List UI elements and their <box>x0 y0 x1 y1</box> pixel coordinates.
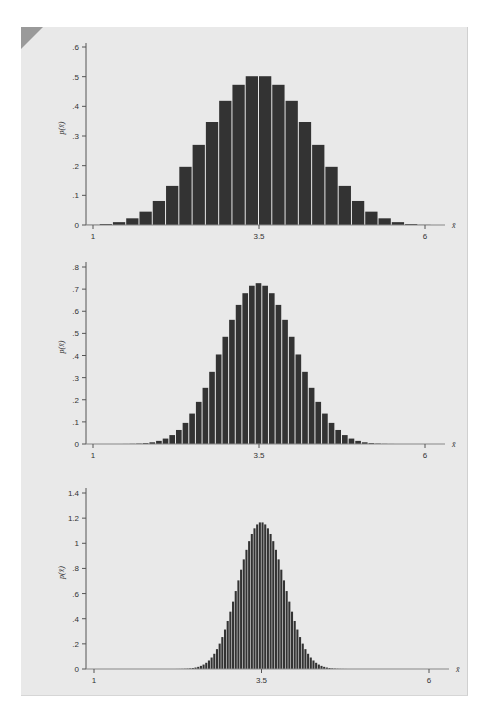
bar <box>221 637 223 669</box>
bar <box>296 354 302 444</box>
y-axis-label: p(x̄) <box>57 566 66 580</box>
y-tick-label: 1.2 <box>68 514 80 523</box>
bar <box>259 76 271 225</box>
y-tick-label: 1 <box>75 539 80 548</box>
bar <box>291 612 293 669</box>
bar <box>232 85 244 225</box>
x-tick-label: 3.5 <box>256 676 268 685</box>
bar <box>213 654 215 669</box>
y-tick-label: .2 <box>72 640 79 649</box>
bar <box>235 591 237 669</box>
bar <box>349 439 355 444</box>
x-tick-label: 6 <box>423 232 428 241</box>
bar <box>322 414 328 444</box>
y-tick-label: .8 <box>72 263 79 272</box>
x-axis-label: x̄ <box>451 440 456 449</box>
bar <box>379 218 391 225</box>
bar <box>203 665 205 669</box>
bar <box>296 630 298 669</box>
bar <box>183 423 189 444</box>
bar <box>229 320 235 444</box>
y-tick-label: .5 <box>72 73 79 82</box>
bar <box>179 167 191 225</box>
bar <box>209 372 215 444</box>
y-tick-label: .5 <box>72 329 79 338</box>
bar <box>246 76 258 225</box>
bar <box>176 430 182 444</box>
bar <box>299 122 311 225</box>
bar <box>302 372 308 444</box>
bar <box>289 337 295 444</box>
bar <box>232 602 234 669</box>
y-tick-label: .6 <box>72 590 79 599</box>
y-axis-label: p(x̄) <box>57 121 66 135</box>
bar <box>262 286 268 444</box>
bar <box>196 402 202 444</box>
bar <box>286 101 298 225</box>
bar <box>309 388 315 444</box>
bars <box>176 522 347 669</box>
bar <box>243 559 245 669</box>
bars <box>86 76 430 225</box>
y-tick-label: .6 <box>72 43 79 52</box>
bar <box>262 522 264 669</box>
bar <box>339 186 351 225</box>
bar <box>299 637 301 669</box>
x-axis-label: x̄ <box>451 221 456 230</box>
bar <box>312 660 314 669</box>
y-tick-label: .3 <box>72 132 79 141</box>
y-tick-label: 1.4 <box>68 489 80 498</box>
bar <box>251 534 253 669</box>
bar <box>203 388 209 444</box>
bar <box>245 550 247 669</box>
y-tick-label: .7 <box>72 285 79 294</box>
bar <box>275 550 277 669</box>
bar <box>205 663 207 669</box>
bar <box>193 145 205 225</box>
y-tick-label: .2 <box>72 162 79 171</box>
bar <box>315 663 317 669</box>
bar <box>312 145 324 225</box>
bar <box>264 524 266 669</box>
chart-1: 0.1.2.3.4.5.613.56x̄p(x̄) <box>57 43 456 241</box>
bar <box>352 201 364 225</box>
bar <box>227 621 229 669</box>
bar <box>240 570 242 669</box>
y-tick-label: .2 <box>72 396 79 405</box>
y-tick-label: 0 <box>75 221 80 230</box>
bar <box>307 654 309 669</box>
bar <box>236 305 242 444</box>
bar <box>248 541 250 669</box>
x-tick-label: 6 <box>427 676 432 685</box>
bar <box>315 402 321 444</box>
bar <box>216 649 218 669</box>
bar <box>163 439 169 444</box>
x-tick-label: 3.5 <box>253 451 265 460</box>
y-tick-label: .4 <box>72 615 79 624</box>
bar <box>302 644 304 669</box>
bar <box>126 218 138 225</box>
bar <box>153 201 165 225</box>
bar <box>304 649 306 669</box>
bar <box>206 122 218 225</box>
bar <box>169 435 175 444</box>
bar <box>325 167 337 225</box>
bar <box>222 337 228 444</box>
y-tick-label: 0 <box>75 440 80 449</box>
bar <box>283 580 285 669</box>
y-tick-label: .1 <box>72 418 79 427</box>
bar <box>259 522 261 669</box>
y-tick-label: .3 <box>72 374 79 383</box>
bar <box>211 658 213 669</box>
x-tick-label: 3.5 <box>253 232 265 241</box>
x-tick-label: 1 <box>91 451 96 460</box>
bar <box>224 630 226 669</box>
bar <box>310 658 312 669</box>
bar <box>278 559 280 669</box>
bar <box>219 101 231 225</box>
y-tick-label: .1 <box>72 191 79 200</box>
y-axis-label: p(x̄) <box>57 340 66 354</box>
bar <box>272 85 284 225</box>
y-tick-label: .4 <box>72 352 79 361</box>
bar <box>276 305 282 444</box>
